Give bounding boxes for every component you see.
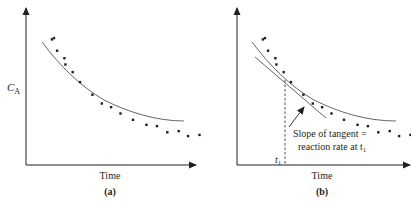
fitted-curve-b: [252, 42, 396, 121]
annotation-arrow: [289, 107, 304, 127]
data-point: [356, 124, 358, 126]
fitted-curve-a: [42, 42, 184, 121]
caption-a: (a): [104, 186, 116, 198]
data-point: [72, 71, 74, 73]
annotation-line-2: reaction rate at t1: [298, 141, 367, 154]
x-axis-label-a: Time: [100, 170, 121, 181]
data-points-b: [262, 37, 411, 137]
data-point: [377, 131, 379, 133]
data-point: [53, 37, 55, 39]
data-point: [119, 112, 121, 114]
data-point: [51, 38, 53, 40]
data-point: [262, 38, 264, 40]
data-point: [398, 135, 400, 137]
data-point: [330, 112, 332, 114]
data-point: [264, 37, 266, 39]
data-point: [343, 119, 345, 121]
data-point: [91, 94, 93, 96]
data-point: [132, 119, 134, 121]
data-point: [101, 102, 103, 104]
data-point: [302, 94, 304, 96]
data-point: [267, 50, 269, 52]
y-axis-label-a: CA: [7, 81, 20, 96]
data-point: [290, 81, 292, 83]
panel-a: CA Time (a): [7, 8, 201, 198]
data-point: [367, 125, 369, 127]
data-point: [389, 130, 391, 132]
data-point: [198, 134, 200, 136]
annotation-line-1: Slope of tangent =: [293, 128, 367, 139]
data-point: [79, 81, 81, 83]
data-point: [178, 130, 180, 132]
data-point: [64, 63, 66, 65]
caption-b: (b): [316, 186, 328, 198]
data-point: [63, 57, 65, 59]
data-point: [187, 135, 189, 137]
data-point: [110, 106, 112, 108]
figure: CA Time (a) Slope of tangent = reaction …: [0, 0, 411, 202]
x-axis-label-b: Time: [312, 170, 333, 181]
data-point: [156, 125, 158, 127]
data-point: [166, 131, 168, 133]
data-points-a: [51, 37, 201, 137]
data-point: [321, 106, 323, 108]
data-point: [275, 63, 277, 65]
panel-b: Slope of tangent = reaction rate at t1 t…: [237, 8, 411, 198]
data-point: [283, 71, 285, 73]
tangent-line: [255, 57, 326, 118]
data-point: [312, 102, 314, 104]
data-point: [145, 124, 147, 126]
data-point: [56, 50, 58, 52]
data-point: [274, 57, 276, 59]
